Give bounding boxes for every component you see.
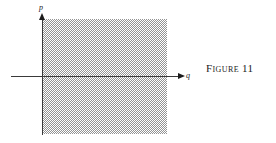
figure-caption-number: 11 (242, 62, 253, 74)
q-axis-label: q (186, 72, 190, 80)
figure-illustration: p q Figure11 (0, 0, 276, 143)
q-axis-line (11, 76, 181, 77)
figure-caption: Figure11 (206, 63, 253, 74)
p-axis-arrowhead-icon (39, 13, 45, 20)
q-axis-arrowhead-icon (178, 73, 185, 79)
figure-caption-word: Figure (206, 62, 239, 74)
p-axis-label: p (39, 4, 43, 12)
